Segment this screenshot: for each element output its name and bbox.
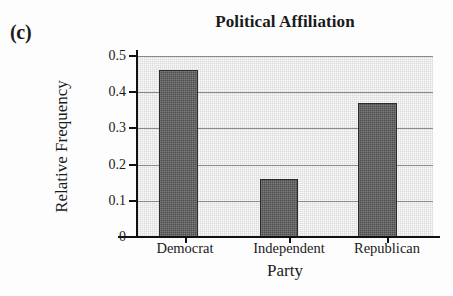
x-axis-tick-label: Republican <box>327 241 447 256</box>
y-axis-tick-label: 0 <box>86 230 126 244</box>
chart-title: Political Affiliation <box>137 13 433 32</box>
y-axis-tick <box>129 127 137 129</box>
figure-panel: (c) Political Affiliation 00.10.20.30.40… <box>0 0 453 296</box>
y-axis-tick <box>129 91 137 93</box>
x-axis-line <box>118 236 440 238</box>
y-axis-tick <box>129 55 137 57</box>
x-axis-tick-label: Democrat <box>125 241 245 256</box>
y-axis-tick <box>129 164 137 166</box>
y-axis-tick-label: 0.4 <box>86 85 126 99</box>
y-axis-tick-labels: 00.10.20.30.40.5 <box>82 0 126 296</box>
x-axis-title: Party <box>137 262 433 279</box>
y-axis-tick <box>129 236 137 238</box>
bar-independent <box>260 179 298 237</box>
y-axis-tick-label: 0.2 <box>86 158 126 172</box>
y-axis-title: Relative Frequency <box>53 57 70 237</box>
y-axis-tick <box>129 200 137 202</box>
plot-area <box>137 56 433 237</box>
gridline <box>137 56 433 57</box>
y-axis-tick-label: 0.5 <box>86 49 126 63</box>
panel-label: (c) <box>10 22 31 42</box>
bar-democrat <box>159 70 198 237</box>
bar-republican <box>358 103 397 237</box>
y-axis-tick-label: 0.1 <box>86 194 126 208</box>
y-axis-tick-label: 0.3 <box>86 121 126 135</box>
y-axis-line <box>136 50 138 238</box>
